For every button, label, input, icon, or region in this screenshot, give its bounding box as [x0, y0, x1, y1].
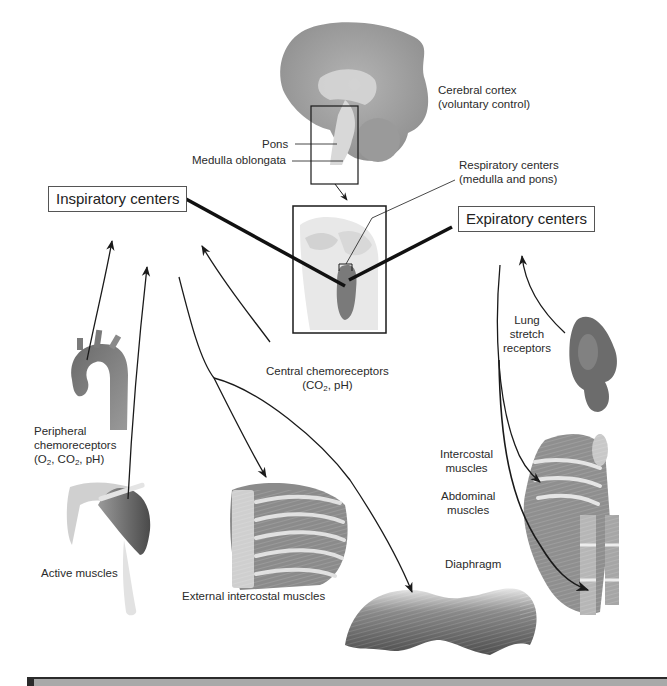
label-medulla-oblongata: Medulla oblongata — [192, 153, 286, 167]
label-lung-stretch-receptors: Lung stretch receptors — [503, 313, 551, 355]
label-cerebral-cortex: Cerebral cortex (voluntary control) — [438, 83, 530, 111]
lung-illustration — [569, 317, 617, 412]
inspiratory-centers-box: Inspiratory centers — [48, 186, 187, 212]
label-respiratory-centers: Respiratory centers (medulla and pons) — [459, 158, 559, 186]
shoulder-illustration — [67, 482, 150, 615]
label-abdominal-muscles: Abdominal muscles — [441, 489, 495, 517]
respiratory-centers-leader-2 — [372, 180, 455, 218]
label-pons: Pons — [262, 137, 288, 151]
ribcage-illustration — [230, 483, 347, 590]
label-diaphragm: Diaphragm — [445, 557, 501, 571]
label-central-chemoreceptors: Central chemoreceptors (CO2, pH) — [266, 364, 389, 396]
arrow-central-to-inspiratory — [202, 246, 270, 342]
label-intercostal-muscles: Intercostal muscles — [440, 447, 493, 475]
footer-bar — [27, 677, 667, 686]
central-chemoreceptors-formula: (CO2, pH) — [266, 378, 389, 396]
label-external-intercostal-muscles: External intercostal muscles — [182, 589, 325, 603]
diaphragm-illustration — [345, 589, 537, 655]
diagram-canvas — [0, 0, 667, 686]
expiratory-centers-box: Expiratory centers — [458, 206, 595, 232]
arrow-inspiratory-to-external-intercostal — [179, 277, 266, 477]
arrow-active-muscles-to-inspiratory — [128, 267, 147, 499]
label-active-muscles: Active muscles — [41, 566, 118, 580]
zoom-arrow — [335, 184, 347, 200]
peripheral-chemoreceptors-formula: (O2, CO2, pH) — [34, 452, 116, 470]
brain-illustration — [280, 22, 428, 165]
aorta-illustration — [71, 330, 128, 430]
trunk-muscles-illustration — [520, 430, 620, 620]
label-peripheral-chemoreceptors: Peripheral chemoreceptors (O2, CO2, pH) — [34, 424, 116, 470]
